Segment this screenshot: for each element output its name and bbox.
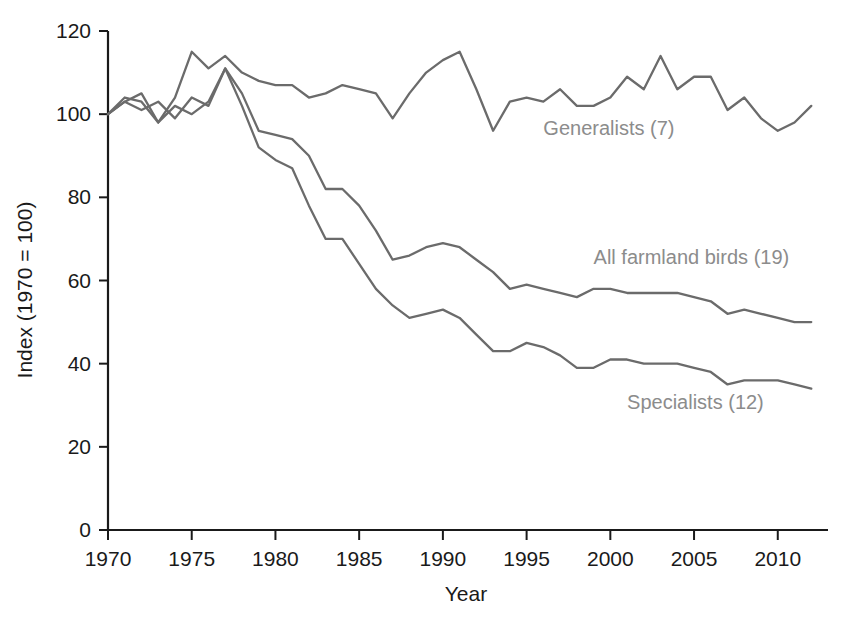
x-tick-label: 2010 — [754, 547, 801, 570]
x-axis-title: Year — [445, 582, 487, 605]
series-line-1 — [108, 68, 811, 322]
y-tick-label: 120 — [56, 19, 91, 42]
x-tick-label: 1975 — [168, 547, 215, 570]
y-axis-title: Index (1970 = 100) — [13, 202, 36, 379]
y-tick-label: 0 — [79, 518, 91, 541]
farmland-bird-index-line-chart: 020406080100120 197019751980198519901995… — [0, 0, 852, 621]
y-tick-label: 100 — [56, 102, 91, 125]
x-axis: 197019751980198519901995200020052010 — [85, 530, 828, 570]
series-label-0: Generalists (7) — [543, 117, 674, 139]
y-axis: 020406080100120 — [56, 19, 108, 541]
y-tick-label: 60 — [68, 269, 91, 292]
series-label-1: All farmland birds (19) — [594, 246, 790, 268]
x-tick-label: 1980 — [252, 547, 299, 570]
y-tick-label: 20 — [68, 435, 91, 458]
chart-container: 020406080100120 197019751980198519901995… — [0, 0, 852, 621]
series-line-2 — [108, 68, 811, 388]
series-group — [108, 52, 811, 389]
x-tick-label: 1985 — [336, 547, 383, 570]
x-tick-label: 2005 — [671, 547, 718, 570]
y-tick-group: 020406080100120 — [56, 19, 108, 541]
series-label-2: Specialists (12) — [627, 391, 764, 413]
y-tick-label: 40 — [68, 352, 91, 375]
x-tick-label: 1990 — [420, 547, 467, 570]
y-tick-label: 80 — [68, 185, 91, 208]
x-tick-label: 1995 — [503, 547, 550, 570]
x-tick-label: 1970 — [85, 547, 132, 570]
x-tick-group: 197019751980198519901995200020052010 — [85, 530, 801, 570]
x-tick-label: 2000 — [587, 547, 634, 570]
